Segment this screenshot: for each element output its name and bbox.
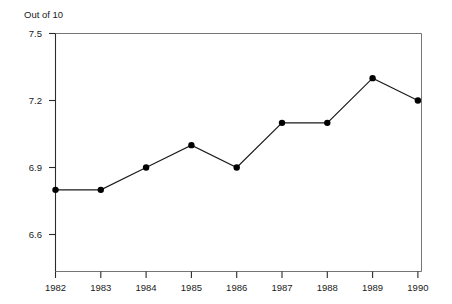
plot-area: [0, 0, 452, 304]
line-chart: Out of 10: [0, 0, 452, 304]
data-point-1984: [143, 164, 149, 170]
data-point-1983: [98, 187, 104, 193]
data-point-1986: [234, 164, 240, 170]
series-markers: [52, 75, 421, 193]
data-point-1989: [369, 75, 375, 81]
x-axis-label-1983: 1983: [84, 283, 118, 293]
y-tick-marks: [49, 34, 56, 235]
data-point-1987: [279, 120, 285, 126]
x-axis-label-1985: 1985: [174, 283, 208, 293]
y-axis-label-7-2: 7.2: [16, 96, 42, 106]
x-tick-marks: [56, 272, 418, 279]
series-line-out-of-10: [56, 78, 418, 190]
y-axis-label-6-6: 6.6: [16, 230, 42, 240]
data-point-1985: [188, 142, 194, 148]
x-axis-label-1986: 1986: [220, 283, 254, 293]
y-axis-label-6-9: 6.9: [16, 163, 42, 173]
x-axis-label-1990: 1990: [401, 283, 435, 293]
data-point-1988: [324, 120, 330, 126]
x-axis-label-1982: 1982: [39, 283, 73, 293]
x-axis-label-1989: 1989: [356, 283, 390, 293]
data-point-1990: [415, 97, 421, 103]
x-axis-label-1988: 1988: [310, 283, 344, 293]
y-axis-label-7-5: 7.5: [16, 29, 42, 39]
data-point-1982: [52, 187, 58, 193]
x-axis-label-1987: 1987: [265, 283, 299, 293]
x-axis-label-1984: 1984: [129, 283, 163, 293]
plot-frame: [56, 34, 422, 272]
